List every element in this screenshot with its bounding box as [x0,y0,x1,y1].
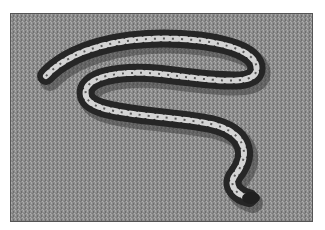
snake-photo [10,13,313,222]
snake-head [242,192,260,204]
snake-illustration [11,14,313,222]
